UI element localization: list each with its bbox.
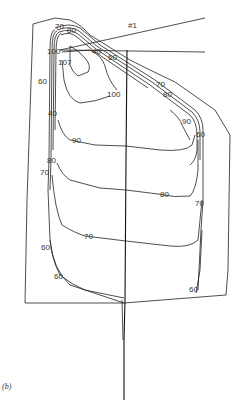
label-90-right: 90 (182, 117, 191, 126)
label-70-top: 70 (55, 22, 64, 31)
label-70-right: 70 (156, 80, 165, 89)
contour-80 (57, 140, 198, 197)
label-90-mid: 90 (72, 136, 81, 145)
contour-diagram: 70 80 100 40 60 107 60 70 80 100 40 90 6… (0, 0, 244, 409)
label-70-right-mid: 70 (195, 199, 204, 208)
label-60-bottom-right: 60 (189, 285, 198, 294)
label-100-left: 100 (47, 47, 61, 56)
label-70-left: 70 (40, 168, 49, 177)
label-40-left: 40 (48, 109, 57, 118)
label-80-top: 80 (67, 26, 76, 35)
label-60-upper: 60 (108, 53, 117, 62)
contour-60 (50, 240, 124, 298)
label-100-inner: 100 (107, 90, 121, 99)
left-edge-contours (48, 30, 124, 303)
top-right-contours (55, 25, 203, 290)
ray-label: #1 (128, 21, 137, 30)
vertical-axis-line (124, 50, 127, 400)
contour-70 (52, 175, 202, 246)
label-60-left: 60 (38, 77, 47, 86)
label-107: 107 (58, 58, 72, 67)
label-80-right: 80 (163, 90, 172, 99)
label-60-lower-left: 60 (41, 243, 50, 252)
label-60-bottom-left: 60 (54, 272, 63, 281)
figure-caption: (b) (2, 382, 12, 391)
label-70-mid: 70 (84, 232, 93, 241)
label-40-center: 40 (92, 47, 101, 56)
label-60-right: 60 (196, 130, 205, 139)
label-80-mid: 80 (160, 190, 169, 199)
label-80-left: 80 (47, 156, 56, 165)
